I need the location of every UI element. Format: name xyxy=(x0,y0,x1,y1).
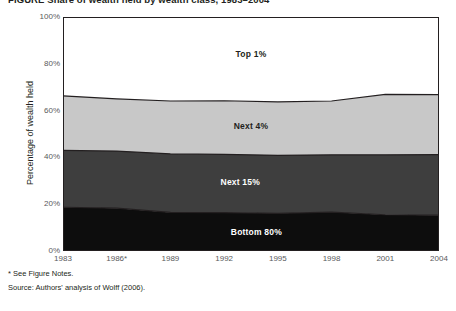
y-tick-label: 40% xyxy=(26,152,60,161)
footnote-source: Source: Authors' analysis of Wolff (2006… xyxy=(8,282,438,293)
y-tick-label: 60% xyxy=(26,106,60,115)
x-tick-label: 1995 xyxy=(256,254,300,263)
x-tick-label: 1998 xyxy=(310,254,354,263)
x-tick-label: 2004 xyxy=(417,254,456,263)
plot-area: Top 1%Next 4%Next 15%Bottom 80% xyxy=(63,17,439,251)
figure-footnotes: * See Figure Notes. Source: Authors' ana… xyxy=(8,268,438,297)
y-axis-tick-labels: 0%20%40%60%80%100% xyxy=(22,0,60,251)
x-tick-label: 1992 xyxy=(202,254,246,263)
x-tick-label: 2001 xyxy=(363,254,407,263)
x-tick-label: 1989 xyxy=(148,254,192,263)
series-label-top-1: Top 1% xyxy=(236,49,267,59)
footnote-asterisk: * See Figure Notes. xyxy=(8,268,438,279)
figure-container: FIGURE Share of wealth held by wealth cl… xyxy=(0,0,456,311)
y-tick-label: 80% xyxy=(26,59,60,68)
figure-title: FIGURE Share of wealth held by wealth cl… xyxy=(8,0,448,6)
series-label-next-4: Next 4% xyxy=(234,121,268,131)
area-top-1-percent xyxy=(63,17,439,102)
y-tick-label: 100% xyxy=(26,12,60,21)
x-tick-label: 1986* xyxy=(95,254,139,263)
series-label-bottom-80: Bottom 80% xyxy=(231,227,282,237)
series-label-next-15: Next 15% xyxy=(221,177,260,187)
x-tick-label: 1983 xyxy=(41,254,85,263)
y-tick-label: 20% xyxy=(26,199,60,208)
x-axis-tick-labels: 19831986*198919921995199820012004 xyxy=(63,254,439,268)
